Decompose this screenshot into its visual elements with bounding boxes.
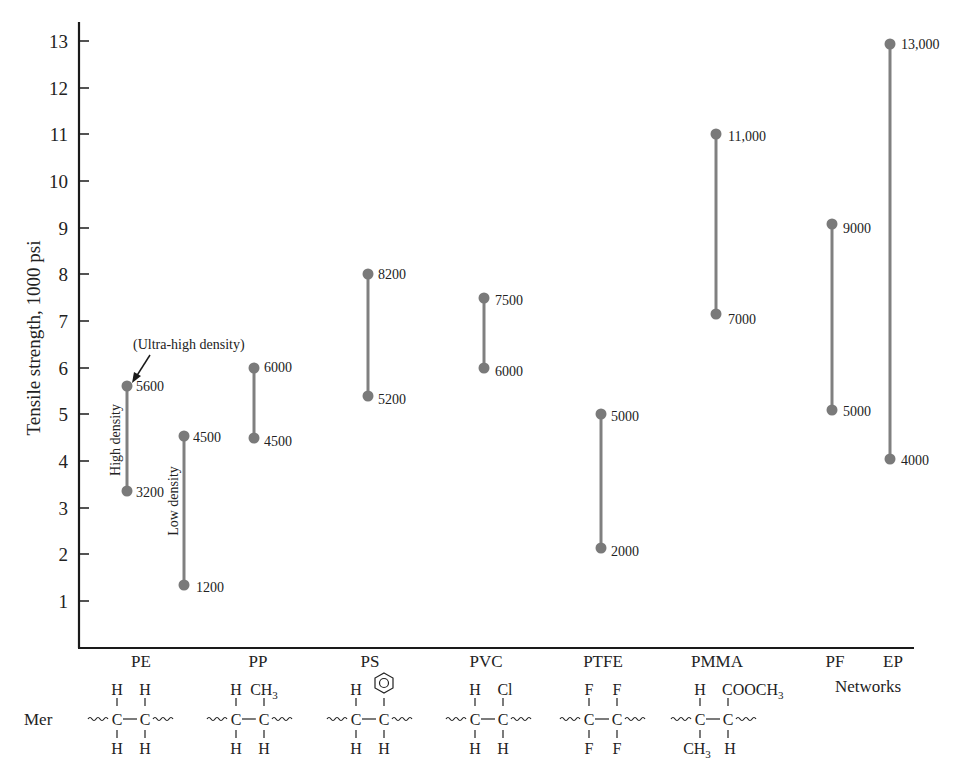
- svg-text:CH3: CH3: [683, 740, 711, 760]
- svg-text:H: H: [111, 740, 123, 757]
- category-ep: EP: [883, 652, 903, 671]
- svg-text:H: H: [350, 681, 362, 698]
- range-bars: [127, 44, 890, 585]
- marker-pmma-low: [711, 309, 722, 320]
- mer-pmma: [671, 698, 756, 738]
- y-tick-5: 5: [59, 404, 69, 425]
- y-tick-labels: 13 12 11 10 9 8 7 6 5 4 3 2 1: [49, 31, 69, 612]
- marker-pp-high: [249, 363, 260, 374]
- value-labels: 5600 3200 4500 1200 6000 4500 8200 5200 …: [136, 37, 940, 595]
- label-pe-hd-low: 3200: [136, 485, 164, 500]
- marker-pf-high: [827, 219, 838, 230]
- category-labels: PE PP PS PVC PTFE PMMA PF EP Networks: [131, 652, 903, 696]
- svg-text:C: C: [231, 711, 242, 728]
- y-tick-1: 1: [59, 591, 69, 612]
- svg-text:C: C: [612, 711, 623, 728]
- svg-text:C: C: [379, 711, 390, 728]
- marker-ep-low: [885, 454, 896, 465]
- axes: [78, 22, 914, 648]
- label-pvc-low: 6000: [495, 364, 523, 379]
- category-ps: PS: [361, 652, 380, 671]
- label-ptfe-high: 5000: [611, 409, 639, 424]
- svg-text:H: H: [139, 740, 151, 757]
- svg-text:H: H: [111, 681, 123, 698]
- svg-text:C: C: [112, 711, 123, 728]
- label-pmma-low: 7000: [728, 312, 756, 327]
- tensile-strength-chart: 13 12 11 10 9 8 7 6 5 4 3 2 1 Tensile st…: [0, 0, 960, 783]
- y-tick-4: 4: [59, 451, 69, 472]
- label-pp-high: 6000: [264, 360, 292, 375]
- high-density-label: High density: [108, 404, 123, 476]
- markers: [122, 39, 896, 591]
- mer-ptfe: [560, 698, 645, 738]
- marker-pe-ld-high: [179, 431, 190, 442]
- svg-text:H: H: [694, 681, 706, 698]
- svg-text:C: C: [723, 711, 734, 728]
- y-ticks: [79, 41, 89, 601]
- marker-pe-hd-high: [122, 381, 133, 392]
- networks-label: Networks: [835, 677, 901, 696]
- marker-ptfe-high: [596, 409, 607, 420]
- label-pp-low: 4500: [264, 434, 292, 449]
- marker-ps-low: [363, 391, 374, 402]
- svg-text:F: F: [613, 740, 622, 757]
- category-pf: PF: [826, 652, 845, 671]
- marker-pmma-high: [711, 129, 722, 140]
- label-pf-low: 5000: [843, 404, 871, 419]
- svg-text:F: F: [585, 681, 594, 698]
- ultra-high-density-annotation: (Ultra-high density): [133, 337, 245, 353]
- label-ps-low: 5200: [378, 392, 406, 407]
- mer-ps: [327, 673, 412, 738]
- category-pe: PE: [131, 652, 151, 671]
- label-pe-hd-high: 5600: [136, 379, 164, 394]
- svg-text:H: H: [724, 740, 736, 757]
- y-tick-6: 6: [59, 358, 69, 379]
- svg-text:C: C: [695, 711, 706, 728]
- label-ptfe-low: 2000: [611, 544, 639, 559]
- marker-pp-low: [249, 433, 260, 444]
- mer-pp: [207, 698, 292, 738]
- marker-pe-ld-low: [179, 580, 190, 591]
- category-ptfe: PTFE: [583, 652, 623, 671]
- svg-text:C: C: [498, 711, 509, 728]
- label-pf-high: 9000: [843, 221, 871, 236]
- marker-ep-high: [885, 39, 896, 50]
- svg-text:C: C: [259, 711, 270, 728]
- label-ps-high: 8200: [378, 267, 406, 282]
- svg-text:H: H: [350, 740, 362, 757]
- marker-pvc-high: [479, 293, 490, 304]
- svg-text:Cl: Cl: [497, 681, 513, 698]
- marker-pvc-low: [479, 363, 490, 374]
- mer-label: Mer: [24, 710, 53, 729]
- label-pe-ld-high: 4500: [193, 430, 221, 445]
- y-tick-12: 12: [49, 78, 68, 99]
- mer-pe: [88, 698, 173, 738]
- svg-text:COOCH3: COOCH3: [722, 681, 784, 701]
- svg-text:C: C: [470, 711, 481, 728]
- svg-text:F: F: [613, 681, 622, 698]
- category-pp: PP: [249, 652, 268, 671]
- label-ep-low: 4000: [901, 453, 929, 468]
- svg-text:F: F: [585, 740, 594, 757]
- mer-pvc: [446, 698, 531, 738]
- y-tick-11: 11: [50, 124, 68, 145]
- marker-ps-high: [363, 269, 374, 280]
- y-tick-9: 9: [59, 218, 69, 239]
- svg-text:C: C: [584, 711, 595, 728]
- y-tick-3: 3: [59, 498, 69, 519]
- y-tick-7: 7: [59, 311, 69, 332]
- svg-text:H: H: [378, 740, 390, 757]
- svg-text:C: C: [351, 711, 362, 728]
- svg-text:H: H: [258, 740, 270, 757]
- category-pvc: PVC: [469, 652, 502, 671]
- category-pmma: PMMA: [691, 652, 744, 671]
- label-ep-high: 13,000: [901, 37, 940, 52]
- benzene-ring-icon: [375, 673, 393, 693]
- y-tick-13: 13: [49, 31, 68, 52]
- low-density-label: Low density: [166, 466, 181, 536]
- y-tick-8: 8: [59, 264, 69, 285]
- y-tick-10: 10: [49, 171, 68, 192]
- label-pmma-high: 11,000: [728, 129, 766, 144]
- marker-ptfe-low: [596, 543, 607, 554]
- svg-text:H: H: [469, 681, 481, 698]
